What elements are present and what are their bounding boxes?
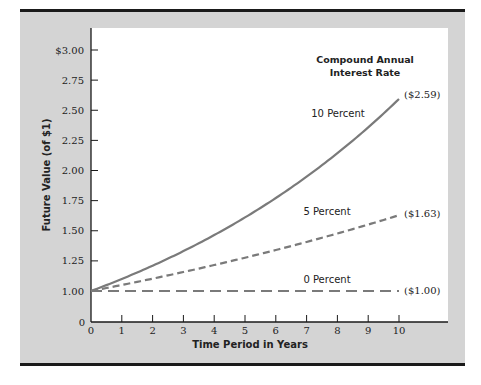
bottom-rule bbox=[20, 363, 465, 366]
chart-figure: $3.002.752.502.252.001.751.501.251.000 0… bbox=[0, 0, 481, 385]
x-tick-label: 1 bbox=[119, 325, 125, 336]
x-tick-label: 2 bbox=[149, 325, 155, 336]
y-tick-label: 1.00 bbox=[62, 286, 84, 297]
x-tick-label: 3 bbox=[180, 325, 186, 336]
x-tick-label: 4 bbox=[211, 325, 217, 336]
chart-canvas: $3.002.752.502.252.001.751.501.251.000 0… bbox=[0, 0, 481, 385]
x-axis-title: Time Period in Years bbox=[192, 339, 308, 350]
x-tick-label: 8 bbox=[334, 325, 340, 336]
x-tick-label: 10 bbox=[393, 325, 406, 336]
series-label-5-percent: 5 Percent bbox=[303, 206, 350, 217]
y-tick-label: 1.75 bbox=[62, 195, 84, 206]
legend-title-line-1: Compound Annual bbox=[316, 54, 414, 65]
y-tick-label: $3.00 bbox=[55, 45, 84, 56]
x-tick-label: 7 bbox=[303, 325, 309, 336]
y-tick-label: 0 bbox=[79, 317, 85, 328]
x-tick-label: 0 bbox=[88, 325, 94, 336]
series-label-0-percent: 0 Percent bbox=[303, 274, 350, 285]
legend-title-line-2: Interest Rate bbox=[330, 67, 401, 78]
series-label-10-percent: 10 Percent bbox=[311, 108, 365, 119]
end-value-5-percent: ($1.63) bbox=[404, 208, 441, 219]
x-tick-label: 9 bbox=[365, 325, 371, 336]
y-axis-title: Future Value (of $1) bbox=[41, 118, 52, 231]
y-tick-label: 2.25 bbox=[62, 135, 84, 146]
y-tick-label: 2.75 bbox=[62, 75, 84, 86]
y-tick-label: 1.50 bbox=[62, 225, 84, 236]
end-value-10-percent: ($2.59) bbox=[404, 89, 441, 100]
y-tick-label: 2.50 bbox=[62, 105, 84, 116]
y-tick-label: 2.00 bbox=[62, 165, 84, 176]
x-tick-label: 6 bbox=[273, 325, 279, 336]
end-value-0-percent: ($1.00) bbox=[404, 285, 441, 296]
top-rule bbox=[20, 9, 465, 12]
y-tick-label: 1.25 bbox=[62, 255, 84, 266]
x-tick-label: 5 bbox=[242, 325, 248, 336]
